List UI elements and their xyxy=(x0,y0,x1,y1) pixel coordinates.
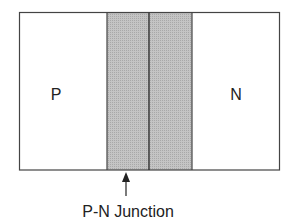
junction-label: P-N Junction xyxy=(82,203,174,220)
arrow-up-icon xyxy=(122,172,130,196)
pn-junction-diagram: P N P-N Junction xyxy=(0,0,299,222)
p-region-label: P xyxy=(51,86,62,103)
n-region-label: N xyxy=(230,86,242,103)
